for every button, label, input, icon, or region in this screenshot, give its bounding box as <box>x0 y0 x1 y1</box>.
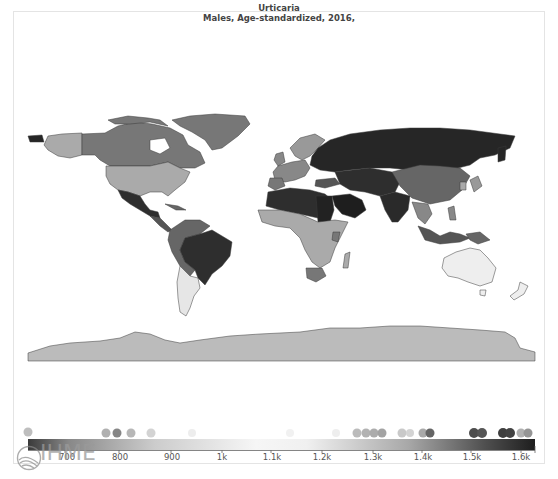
region-philippines[interactable] <box>448 206 456 220</box>
region-southeast-asia[interactable] <box>412 202 432 224</box>
ihme-logo-icon <box>16 445 42 471</box>
color-scale-bar <box>28 439 535 450</box>
legend-dot[interactable] <box>188 429 196 437</box>
ihme-logo-text: IHME <box>40 440 96 465</box>
legend-dot[interactable] <box>370 429 379 438</box>
legend-dot-row <box>24 428 533 439</box>
region-papua[interactable] <box>466 232 490 244</box>
region-indonesia[interactable] <box>418 226 470 244</box>
region-india[interactable] <box>380 192 410 222</box>
region-iberia[interactable] <box>268 178 285 190</box>
region-caribbean[interactable] <box>165 204 186 210</box>
region-turkey[interactable] <box>315 178 340 188</box>
legend-dot[interactable] <box>524 429 533 438</box>
legend-dot[interactable] <box>332 429 340 437</box>
region-tasmania[interactable] <box>480 290 486 296</box>
legend-dot[interactable] <box>113 429 122 438</box>
region-kamchatka[interactable] <box>498 146 506 162</box>
region-madagascar[interactable] <box>343 252 350 268</box>
legend-dot[interactable] <box>406 429 414 437</box>
region-new-zealand[interactable] <box>510 282 528 300</box>
region-japan[interactable] <box>470 176 482 192</box>
legend-dot[interactable] <box>286 429 294 437</box>
region-united-kingdom[interactable] <box>274 152 285 166</box>
legend-dot[interactable] <box>127 429 136 438</box>
legend-dot[interactable] <box>477 428 487 438</box>
region-central-america[interactable] <box>150 216 172 232</box>
region-central-asia[interactable] <box>335 168 400 196</box>
legend-dot[interactable] <box>362 429 371 438</box>
region-alaska-tip[interactable] <box>28 135 44 142</box>
region-russia[interactable] <box>310 128 515 172</box>
world-choropleth-map[interactable] <box>0 0 558 479</box>
legend-dot[interactable] <box>102 429 111 438</box>
legend-dot[interactable] <box>24 428 33 437</box>
region-south-africa[interactable] <box>306 268 326 282</box>
region-egypt-sudan[interactable] <box>316 196 334 222</box>
region-australia[interactable] <box>442 248 496 286</box>
legend-dot[interactable] <box>426 429 435 438</box>
legend-dot[interactable] <box>398 429 407 438</box>
region-korea[interactable] <box>460 182 466 190</box>
region-alaska[interactable] <box>44 133 82 158</box>
legend-dot[interactable] <box>353 429 362 438</box>
legend-dot[interactable] <box>505 428 515 438</box>
region-antarctica[interactable] <box>28 326 535 361</box>
legend-dot[interactable] <box>147 429 156 438</box>
legend-dot[interactable] <box>378 429 387 438</box>
region-arabian-peninsula[interactable] <box>332 194 366 218</box>
